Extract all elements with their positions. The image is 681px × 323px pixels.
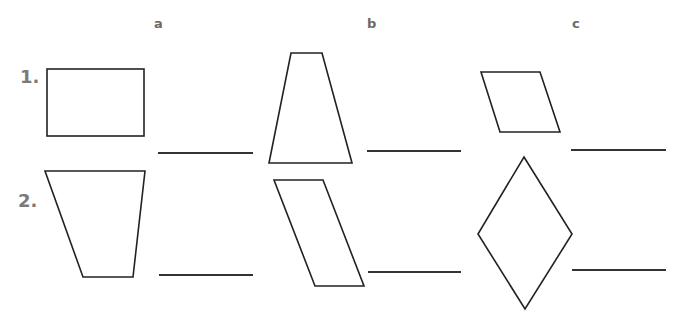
shape-2c-rhombus [478,157,572,309]
shape-2b-parallelogram [274,180,364,286]
shape-1a-rectangle [47,69,144,136]
shape-1c-parallelogram [481,72,560,132]
shape-1b-trapezoid [269,53,352,163]
shape-2a-trapezoid [45,171,145,277]
worksheet-canvas [0,0,681,323]
